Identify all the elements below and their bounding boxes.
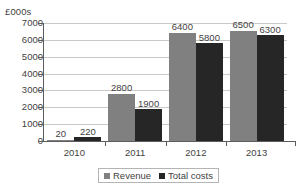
bar-group: 28001900	[108, 23, 162, 141]
bar-revenue-2011	[108, 94, 135, 141]
legend-entry-revenue[interactable]: Revenue	[104, 171, 151, 181]
x-axis-separator	[105, 141, 106, 146]
plot-area: 20220280019006400580065006300	[44, 23, 287, 141]
bar-total-costs-2013	[257, 35, 284, 141]
bar-group: 64005800	[169, 23, 223, 141]
bar-group: 65006300	[230, 23, 284, 141]
bar-value-label: 6300	[255, 25, 285, 35]
bar-revenue-2010	[47, 140, 74, 141]
bar-value-label: 1900	[134, 99, 164, 109]
x-axis-label-2013: 2013	[227, 148, 287, 158]
bar-value-label: 220	[73, 127, 103, 137]
bar-revenue-2013	[230, 31, 257, 141]
x-axis-separator	[166, 141, 167, 146]
bar-chart: £000s 01000200030004000500060007000 2022…	[0, 0, 301, 189]
bar-value-label: 6500	[228, 20, 258, 30]
x-axis-line	[43, 141, 295, 142]
bar-value-label: 5800	[194, 33, 224, 43]
bar-value-label: 2800	[107, 83, 137, 93]
x-axis-label-2010: 2010	[44, 148, 104, 158]
legend-swatch-icon	[104, 173, 110, 179]
legend-swatch-icon	[159, 173, 165, 179]
bar-total-costs-2011	[135, 109, 162, 141]
chart-legend: RevenueTotal costs	[98, 168, 219, 183]
bar-value-label: 20	[46, 129, 76, 139]
bar-group: 20220	[47, 23, 101, 141]
legend-entry-total-costs[interactable]: Total costs	[159, 171, 213, 181]
legend-label: Total costs	[168, 171, 213, 181]
legend-label: Revenue	[113, 171, 151, 181]
bar-total-costs-2010	[74, 137, 101, 141]
x-axis-label-2011: 2011	[105, 148, 165, 158]
y-axis-tick-container: 01000200030004000500060007000	[0, 0, 43, 189]
bar-revenue-2012	[169, 33, 196, 141]
x-axis-label-2012: 2012	[166, 148, 226, 158]
bar-total-costs-2012	[196, 43, 223, 141]
x-axis-separator	[226, 141, 227, 146]
x-axis-end-tick	[295, 141, 296, 146]
bar-value-label: 6400	[167, 22, 197, 32]
